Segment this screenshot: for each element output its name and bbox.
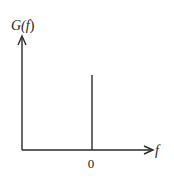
x-axis-label: f bbox=[155, 143, 161, 158]
y-axis-label: G(f) bbox=[11, 18, 35, 34]
origin-tick-label: 0 bbox=[88, 156, 95, 171]
spectrum-plot: G(f) f 0 bbox=[0, 0, 174, 187]
diagram-canvas: G(f) f 0 bbox=[0, 0, 174, 187]
y-axis-label-prefix: G( bbox=[11, 18, 27, 34]
y-axis-label-suffix: ) bbox=[30, 18, 35, 34]
